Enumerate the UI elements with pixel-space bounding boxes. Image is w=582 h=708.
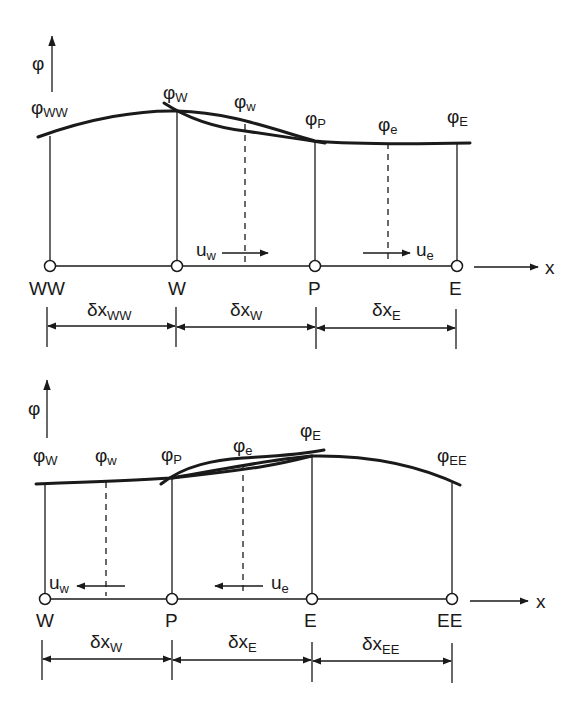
node-label-EE: EE bbox=[437, 610, 462, 631]
node-label-E: E bbox=[449, 278, 462, 299]
velocity-label-ue: ue bbox=[271, 572, 289, 596]
spacing-label-E: δxE bbox=[372, 299, 401, 323]
x-axis-label: x bbox=[545, 257, 555, 278]
phi-label-E: φE bbox=[447, 106, 468, 129]
node-E bbox=[452, 261, 463, 272]
node-E bbox=[307, 594, 318, 605]
spacing-label-E: δxE bbox=[228, 631, 257, 655]
phi-label-e: φe bbox=[233, 435, 253, 458]
velocity-label-ue: ue bbox=[416, 239, 434, 263]
spacing-label-W: δxW bbox=[90, 631, 123, 655]
node-label-P: P bbox=[308, 278, 321, 299]
phi-label-P: φP bbox=[305, 108, 326, 131]
phi-label-w: φw bbox=[95, 445, 117, 468]
node-label-P: P bbox=[165, 610, 178, 631]
node-label-W: W bbox=[168, 278, 186, 299]
phi-axis-label: φ bbox=[32, 53, 44, 74]
spacing-label-EE: δxEE bbox=[362, 633, 400, 657]
velocity-label-uw: uw bbox=[196, 239, 217, 263]
velocity-label-uw: uw bbox=[49, 572, 70, 596]
node-W bbox=[172, 261, 183, 272]
node-P bbox=[167, 594, 178, 605]
phi-label-E: φE bbox=[300, 420, 321, 443]
phi-label-w: φw bbox=[234, 91, 256, 114]
node-W bbox=[40, 594, 51, 605]
x-axis-label: x bbox=[536, 591, 546, 612]
phi-label-W: φW bbox=[33, 445, 58, 468]
node-label-WW: WW bbox=[29, 278, 65, 299]
node-label-W: W bbox=[36, 610, 54, 631]
spacing-label-WW: δxWW bbox=[87, 299, 132, 323]
top-diagram: φ x WW W P E φWW φW φw φP φe φE uw bbox=[29, 36, 555, 349]
node-label-E: E bbox=[304, 610, 317, 631]
phi-label-e: φe bbox=[378, 114, 398, 137]
node-EE bbox=[447, 594, 458, 605]
node-WW bbox=[45, 261, 56, 272]
phi-label-WW: φWW bbox=[31, 97, 69, 120]
phi-label-EE: φEE bbox=[437, 445, 467, 468]
bottom-diagram: φ x W P E EE φW φw φP φe φE φEE uw u bbox=[28, 380, 546, 683]
phi-axis-label: φ bbox=[28, 398, 40, 419]
phi-label-W: φW bbox=[163, 82, 188, 105]
phi-label-P: φP bbox=[161, 444, 182, 467]
phi-profile-curve bbox=[38, 111, 470, 144]
node-P bbox=[310, 261, 321, 272]
spacing-label-W: δxW bbox=[230, 299, 263, 323]
interpolation-diagram: φ x WW W P E φWW φW φw φP φe φE uw bbox=[0, 0, 582, 708]
